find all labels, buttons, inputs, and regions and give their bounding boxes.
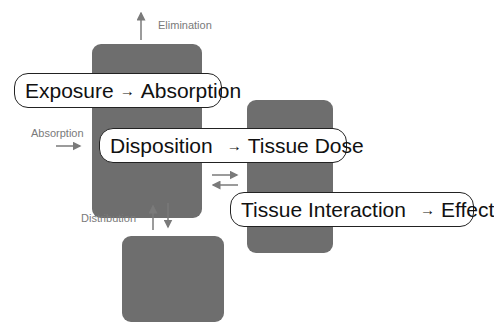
stage-to: Tissue Dose — [248, 135, 364, 156]
stage-to: Effect — [441, 199, 494, 220]
stage-from: Tissue Interaction — [241, 199, 406, 220]
stage-disposition-tissue-dose: Disposition → Tissue Dose — [99, 128, 347, 163]
right-arrow-icon: → — [227, 138, 242, 153]
right-arrow-icon: → — [420, 202, 435, 217]
elimination-label: Elimination — [158, 19, 212, 31]
absorption-label: Absorption — [31, 127, 84, 139]
stage-from: Disposition — [110, 135, 213, 156]
right-arrow-icon: → — [120, 83, 135, 98]
distribution-arrows-icon — [153, 203, 168, 230]
distribution-label: Distribution — [81, 212, 136, 224]
stage-from: Exposure — [25, 80, 114, 101]
exchange-arrows-icon — [212, 175, 238, 185]
stage-exposure-absorption: Exposure → Absorption — [14, 73, 222, 108]
stage-tissue-interaction-effect: Tissue Interaction → Effect — [230, 192, 474, 227]
stage-to: Absorption — [141, 80, 241, 101]
